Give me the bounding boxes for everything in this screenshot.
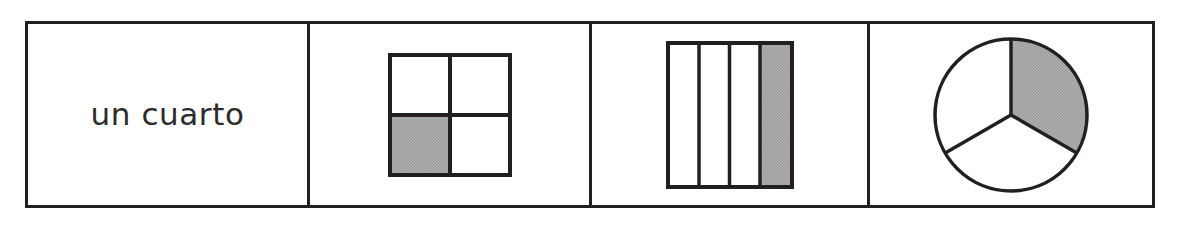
table-cell-term-label: un cuarto [28, 24, 310, 205]
circle-radius-3 [945, 115, 1011, 153]
fraction-comparison-table: un cuarto [25, 21, 1155, 208]
worksheet-root: un cuarto [0, 0, 1200, 227]
table-cell-bar-model [592, 24, 870, 205]
square-quarters-diagram [388, 53, 512, 177]
fraction-term-text: un cuarto [90, 99, 244, 130]
square-quarters-svg [388, 53, 512, 177]
circle-thirds-svg [931, 35, 1091, 195]
table-cell-circle-model [870, 24, 1152, 205]
bar-shaded-strip [760, 43, 790, 187]
bar-quarters-diagram [666, 41, 794, 189]
square-shaded-quadrant [390, 115, 450, 175]
circle-thirds-diagram [931, 35, 1091, 195]
table-cell-square-model [310, 24, 592, 205]
bar-quarters-svg [666, 41, 794, 189]
